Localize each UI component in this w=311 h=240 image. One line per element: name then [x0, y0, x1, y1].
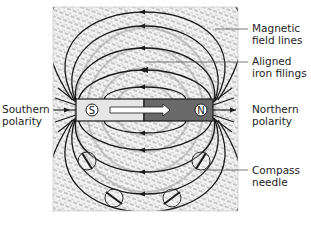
compass-needle-1	[78, 152, 96, 170]
compass-needle-2	[105, 189, 123, 207]
label-line: field lines	[252, 34, 302, 46]
north-pole-letter: N	[197, 105, 204, 116]
label-line: needle	[252, 176, 300, 188]
label-line: Southern	[2, 103, 50, 115]
label-line: Aligned	[252, 55, 307, 67]
label-southern-polarity: Southern polarity	[2, 103, 50, 127]
label-northern-polarity: Northern polarity	[252, 103, 299, 127]
label-line: iron filings	[252, 67, 307, 79]
label-line: Magnetic	[252, 22, 302, 34]
label-line: polarity	[2, 115, 50, 127]
compass-needle-3	[163, 189, 181, 207]
bar-magnet: S N	[76, 99, 213, 121]
south-pole-letter: S	[89, 105, 95, 116]
label-aligned-iron-filings: Aligned iron filings	[252, 55, 307, 79]
label-compass-needle: Compass needle	[252, 164, 300, 188]
compass-needle-4	[192, 152, 210, 170]
label-line: polarity	[252, 115, 299, 127]
label-line: Compass	[252, 164, 300, 176]
label-magnetic-field-lines: Magnetic field lines	[252, 22, 302, 46]
label-line: Northern	[252, 103, 299, 115]
